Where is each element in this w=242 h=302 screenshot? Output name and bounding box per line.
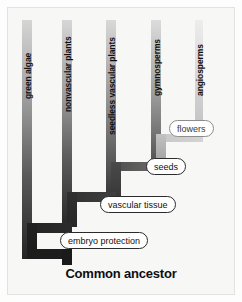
trait-pill-embryo-protection[interactable]: embryo protection: [60, 232, 148, 249]
taxon-label-gymnosperms: gymnosperms: [153, 39, 162, 96]
taxon-label-seedless-vascular-plants: seedless vascular plants: [108, 37, 117, 135]
taxon-label-angiosperms: angiosperms: [196, 44, 205, 96]
cladogram-plot: green algae nonvascular plants seedless …: [10, 10, 232, 292]
trait-pill-seeds[interactable]: seeds: [146, 158, 186, 175]
taxon-label-nonvascular-plants: nonvascular plants: [64, 36, 73, 112]
node-stem-seeds: [111, 162, 121, 196]
common-ancestor-label: Common ancestor: [10, 266, 232, 281]
trait-pill-flowers[interactable]: flowers: [169, 120, 214, 137]
cladogram-figure: green algae nonvascular plants seedless …: [0, 0, 242, 302]
taxon-label-green-algae: green algae: [24, 53, 33, 99]
root-stem: [62, 249, 72, 265]
node-stem-vascular-tissue: [67, 192, 77, 227]
trait-pill-vascular-tissue[interactable]: vascular tissue: [100, 196, 176, 213]
